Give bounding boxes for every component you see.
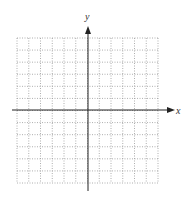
x-axis-label: x [175,105,181,116]
coordinate-plane: x y [0,0,190,197]
x-axis-arrow-icon [167,107,175,113]
y-axis-label: y [84,11,90,22]
y-axis-arrow-icon [85,26,91,34]
